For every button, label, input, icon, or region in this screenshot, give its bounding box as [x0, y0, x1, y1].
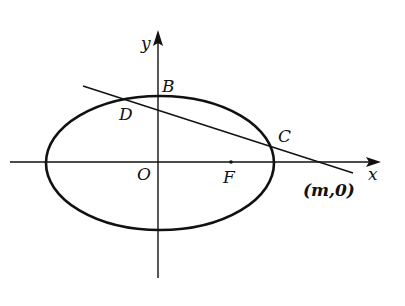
focus-point [229, 160, 233, 164]
secant-line [83, 86, 353, 173]
diagram-canvas: y x O B D C F (m,0) [0, 0, 405, 306]
focus-label: F [223, 169, 235, 186]
point-d-label: D [119, 106, 133, 123]
origin-label: O [137, 166, 151, 183]
point-c-label: C [278, 128, 291, 145]
y-axis-label: y [141, 35, 151, 52]
intercept-label: (m,0) [303, 182, 355, 199]
ellipse [46, 96, 274, 230]
x-axis-label: x [368, 166, 378, 183]
point-b-label: B [162, 78, 175, 95]
ellipse-figure [0, 0, 405, 306]
